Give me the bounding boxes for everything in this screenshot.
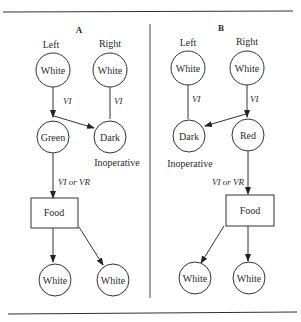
- node-b-top-left-label: White: [176, 63, 201, 74]
- node-a-bottom-right-label: White: [101, 275, 126, 286]
- node-a-dark-label: Dark: [100, 132, 120, 143]
- node-b-top-right-label: White: [235, 63, 260, 74]
- node-a-green-label: Green: [41, 132, 65, 143]
- panel-b-right-edge-label: VI: [250, 94, 259, 104]
- edge-b-food-to-left-white: [201, 226, 224, 263]
- node-b-dark-label: Dark: [179, 131, 199, 142]
- panel-b-left-label: Left: [180, 37, 197, 48]
- node-a-bottom-left-label: White: [43, 275, 68, 286]
- panel-a-left-label: Left: [43, 39, 60, 50]
- food-box-b-label: Food: [240, 205, 261, 216]
- top-rule: [3, 11, 293, 12]
- panel-b: B Left Right VI VI VI or VR White White …: [167, 23, 274, 294]
- node-b-bottom-left-label: White: [183, 273, 208, 284]
- node-b-bottom-right-label: White: [237, 273, 262, 284]
- panel-a-inoperative-note: Inoperative: [94, 157, 140, 168]
- edge-a-food-to-right-white: [79, 227, 103, 265]
- panel-b-inoperative-note: Inoperative: [167, 158, 213, 169]
- node-a-top-left-label: White: [41, 65, 66, 76]
- node-a-top-right-label: White: [98, 65, 123, 76]
- bottom-rule: [8, 312, 297, 314]
- node-b-red-label: Red: [240, 130, 256, 141]
- panel-b-food-edge-label: VI or VR: [212, 177, 244, 187]
- panel-b-title: B: [218, 23, 224, 33]
- panel-b-right-label: Right: [236, 36, 258, 47]
- panel-a-right-edge-label: VI: [114, 96, 123, 106]
- panel-a-title: A: [76, 25, 83, 35]
- panel-a-food-edge-label: VI or VR: [58, 177, 90, 187]
- food-box-a-label: Food: [44, 207, 65, 218]
- panel-a: A Left Right VI VI VI or VR White White …: [31, 25, 140, 296]
- panel-b-left-edge-label: VI: [192, 94, 201, 104]
- panel-a-left-edge-label: VI: [63, 96, 72, 106]
- diagram: A Left Right VI VI VI or VR White White …: [0, 0, 301, 322]
- panel-a-right-label: Right: [99, 38, 121, 49]
